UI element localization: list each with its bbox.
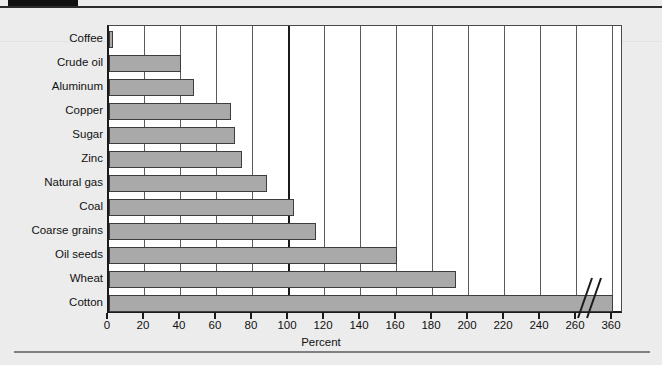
bar (109, 79, 194, 96)
x-tick-label-80: 80 (231, 319, 271, 331)
bar (109, 295, 613, 312)
gridline-120 (324, 26, 325, 311)
x-tick-label-180: 180 (411, 319, 451, 331)
category-axis-labels: CoffeeCrude oilAluminumCopperSugarZincNa… (0, 25, 103, 313)
bar (109, 199, 294, 216)
category-label-oil-seeds: Oil seeds (3, 246, 103, 263)
category-label-coal: Coal (3, 198, 103, 215)
category-label-coarse-grains: Coarse grains (3, 222, 103, 239)
plot-area (107, 25, 622, 313)
top-horizontal-rule (0, 6, 662, 8)
category-label-cotton: Cotton (3, 294, 103, 311)
category-label-wheat: Wheat (3, 270, 103, 287)
gridline-140 (360, 26, 361, 311)
x-tick-label-100: 100 (267, 319, 307, 331)
bar (109, 175, 267, 192)
gridline-200 (468, 26, 469, 311)
category-label-copper: Copper (3, 102, 103, 119)
x-tick-label-160: 160 (375, 319, 415, 331)
gridline-180 (432, 26, 433, 311)
x-tick-label-260: 260 (555, 319, 595, 331)
x-tick-label-240: 240 (519, 319, 559, 331)
bar (109, 103, 231, 120)
gridline-60 (216, 26, 217, 311)
x-tick-label-120: 120 (303, 319, 343, 331)
bar (109, 151, 242, 168)
bar (109, 271, 456, 288)
category-label-aluminum: Aluminum (3, 78, 103, 95)
gridline-160 (396, 26, 397, 311)
x-tick-label-60: 60 (195, 319, 235, 331)
chart-figure: CoffeeCrude oilAluminumCopperSugarZincNa… (0, 0, 662, 365)
x-tick-label-140: 140 (339, 319, 379, 331)
bar (109, 31, 113, 48)
category-label-coffee: Coffee (3, 30, 103, 47)
gridline-220 (504, 26, 505, 311)
category-label-sugar: Sugar (3, 126, 103, 143)
x-tick-label-0: 0 (87, 319, 127, 331)
category-label-natural-gas: Natural gas (3, 174, 103, 191)
bar (109, 223, 316, 240)
gridline-240 (540, 26, 541, 311)
x-tick-label-220: 220 (483, 319, 523, 331)
category-label-zinc: Zinc (3, 150, 103, 167)
x-axis-title: Percent (0, 336, 662, 348)
x-axis-title-text: Percent (301, 336, 341, 348)
gridline-260 (576, 26, 577, 311)
bar (109, 247, 397, 264)
category-label-crude-oil: Crude oil (3, 54, 103, 71)
plot-inner (109, 26, 621, 311)
gridline-80 (252, 26, 253, 311)
x-tick-label-20: 20 (123, 319, 163, 331)
gridline-100 (288, 26, 290, 311)
bar (109, 127, 235, 144)
bar (109, 55, 181, 72)
x-tick-label-200: 200 (447, 319, 487, 331)
gridline-360 (612, 26, 613, 311)
x-tick-label-40: 40 (159, 319, 199, 331)
x-tick-label-360: 360 (591, 319, 631, 331)
bottom-horizontal-rule (14, 351, 650, 353)
